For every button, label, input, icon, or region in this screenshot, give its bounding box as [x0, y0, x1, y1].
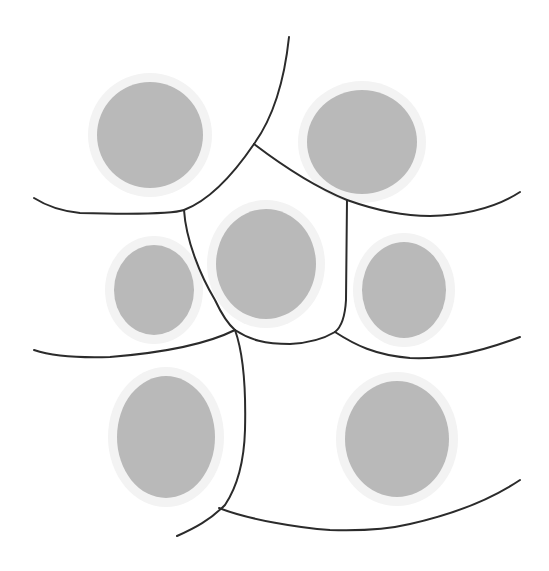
nucleus-top-left [97, 82, 203, 188]
nucleus-bottom-left [117, 376, 215, 498]
nucleus-middle-right [362, 242, 446, 338]
nucleus-bottom-right [345, 381, 449, 497]
nuclei-group [97, 82, 449, 498]
boundary-top-divider [254, 37, 289, 144]
boundary-center-right-wall [335, 200, 347, 332]
nucleus-middle-left [114, 245, 194, 335]
boundary-center-bottom [235, 330, 335, 344]
cell-diagram [0, 0, 549, 571]
nucleus-top-right [307, 90, 417, 194]
nucleus-center [216, 209, 316, 319]
